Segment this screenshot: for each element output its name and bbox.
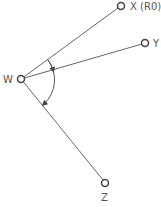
angle-diagram: W X (R0) Y Z (0, 0, 161, 207)
node-x (118, 3, 125, 10)
label-y: Y (152, 38, 160, 49)
edge-w-y (21, 44, 142, 79)
edge-w-x (21, 8, 118, 79)
label-z: Z (101, 192, 108, 203)
label-w: W (3, 74, 13, 85)
node-w (18, 76, 25, 83)
node-z (102, 180, 109, 187)
edge-w-z (21, 79, 103, 180)
label-x: X (R0) (130, 1, 161, 12)
angle-arc-x-to-z (44, 60, 55, 104)
node-y (142, 40, 149, 47)
